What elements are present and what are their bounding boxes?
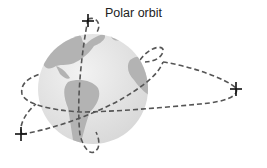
orbit-diagram — [0, 0, 267, 168]
polar-orbit-label: Polar orbit — [105, 6, 162, 20]
earth-globe — [38, 31, 150, 146]
satellite-left-icon — [15, 127, 27, 141]
satellite-polar-icon — [82, 14, 94, 27]
